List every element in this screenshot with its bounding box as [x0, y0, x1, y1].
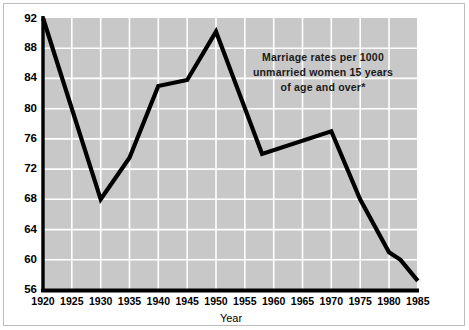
x-tick-1960: 1960	[262, 295, 286, 307]
x-tick-labels: 1920 1925 1930 1935 1940 1945 1950 1955 …	[31, 295, 429, 307]
y-tick-68: 68	[24, 192, 37, 204]
x-tick-1945: 1945	[176, 295, 200, 307]
line-chart: 56 60 64 68 72 76 80 84 88 92 1920 1925 …	[0, 0, 469, 330]
y-tick-64: 64	[24, 223, 37, 235]
y-tick-60: 60	[24, 253, 37, 265]
y-tick-80: 80	[24, 102, 37, 114]
x-tick-1985: 1985	[406, 295, 430, 307]
x-tick-1920: 1920	[31, 295, 55, 307]
y-tick-84: 84	[24, 71, 37, 83]
x-tick-1955: 1955	[233, 295, 257, 307]
x-tick-1930: 1930	[89, 295, 113, 307]
x-tick-1965: 1965	[291, 295, 315, 307]
y-tick-76: 76	[24, 132, 37, 144]
x-tick-1970: 1970	[320, 295, 344, 307]
x-axis-title: Year	[220, 312, 243, 324]
x-tick-1980: 1980	[377, 295, 401, 307]
x-tick-1935: 1935	[118, 295, 142, 307]
annotation-line-3: of age and over*	[281, 81, 367, 93]
y-tick-72: 72	[24, 162, 37, 174]
y-tick-88: 88	[24, 41, 37, 53]
y-tick-56: 56	[24, 283, 37, 295]
y-tick-labels: 56 60 64 68 72 76 80 84 88 92	[24, 12, 37, 295]
x-tick-1940: 1940	[147, 295, 171, 307]
annotation-line-1: Marriage rates per 1000	[262, 51, 384, 63]
y-tick-92: 92	[24, 12, 37, 24]
x-tick-1950: 1950	[204, 295, 228, 307]
x-tick-1925: 1925	[60, 295, 84, 307]
annotation-line-2: unmarried women 15 years	[253, 66, 393, 78]
x-tick-1975: 1975	[349, 295, 373, 307]
chart-figure: 56 60 64 68 72 76 80 84 88 92 1920 1925 …	[0, 0, 469, 330]
